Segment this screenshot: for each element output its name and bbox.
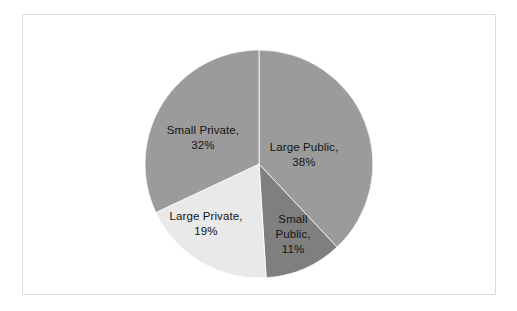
pie-slices-group: [145, 50, 373, 278]
pie-chart: [0, 0, 517, 311]
